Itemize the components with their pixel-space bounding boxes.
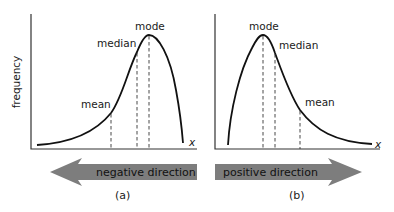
panel-a-curve	[37, 35, 183, 145]
skewness-figure: frequency mean median mode x mode median…	[0, 0, 394, 212]
panel-a-mode-label: mode	[135, 20, 165, 32]
panel-b-curve	[228, 35, 372, 145]
panel-b-median-label: median	[279, 39, 318, 51]
positive-direction-label: positive direction	[223, 166, 318, 179]
panel-a: mean median mode x	[31, 14, 197, 149]
panel-b-mean-label: mean	[305, 96, 335, 108]
y-axis-label: frequency	[10, 56, 22, 109]
panel-b-x-label: x	[374, 138, 382, 150]
panel-a-mean-label: mean	[81, 98, 111, 110]
negative-direction-label: negative direction	[96, 166, 196, 179]
caption-b: (b)	[289, 189, 305, 202]
panel-a-x-label: x	[188, 136, 196, 148]
panel-b: mode median mean x	[215, 14, 382, 150]
panel-b-mode-label: mode	[249, 20, 279, 32]
caption-a: (a)	[115, 189, 130, 202]
panel-a-axes	[31, 14, 197, 149]
panel-a-median-label: median	[97, 37, 136, 49]
